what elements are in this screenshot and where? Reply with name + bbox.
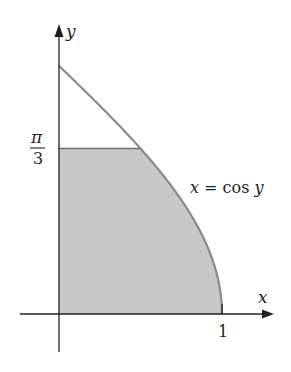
curve-label: x = cos y [190, 178, 265, 197]
y-tick-label-pi: π [30, 127, 43, 147]
curve-label-rest: = cos [199, 178, 254, 197]
y-axis-arrow-icon [55, 24, 64, 37]
diagram-canvas: y x 1 π 3 x = cos y [0, 0, 291, 372]
x-tick-label-one: 1 [218, 322, 228, 341]
x-axis-label: x [258, 287, 268, 307]
curve-label-x: x [190, 178, 199, 197]
y-axis-label: y [65, 21, 76, 41]
x-axis-arrow-icon [262, 310, 274, 319]
curve-label-y: y [254, 178, 265, 197]
shaded-region [59, 149, 222, 314]
y-tick-label-three: 3 [33, 149, 43, 168]
